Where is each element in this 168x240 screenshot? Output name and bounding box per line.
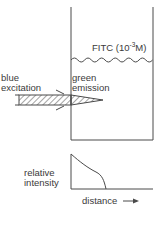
excitation-label-line2: excitation [1, 83, 41, 93]
graph-y-label: relative intensity [24, 168, 59, 188]
excitation-beam [15, 90, 103, 110]
emission-cone [71, 95, 103, 105]
graph-y-label-line2: intensity [24, 178, 59, 188]
beam-upper-pointer [56, 90, 64, 94]
intensity-curve [71, 154, 106, 189]
solution-label-main: FITC (10 [92, 42, 129, 53]
beam-lower-pointer [56, 106, 64, 110]
emission-label: green emission [72, 73, 110, 93]
right-arrow-icon [123, 199, 139, 204]
solution-label: FITC (10-3M) [92, 43, 146, 53]
emission-label-line2: emission [72, 83, 110, 93]
beam-hatched-body [19, 95, 71, 105]
excitation-label: blue excitation [1, 73, 41, 93]
solution-label-unit: M) [135, 42, 146, 53]
liquid-surface-wave [71, 58, 153, 62]
graph-x-label: distance [82, 196, 117, 206]
